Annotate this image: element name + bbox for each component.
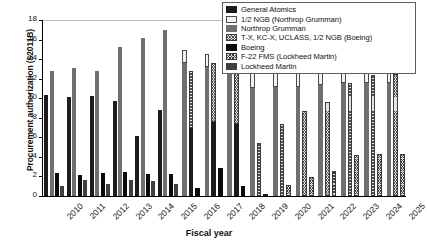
bar	[106, 184, 110, 196]
legend-swatch	[226, 63, 237, 70]
bar	[67, 97, 71, 196]
bar-segment-northrop_grumman	[72, 68, 76, 196]
bar-group-2016	[181, 21, 201, 196]
x-tick-label-2016: 2016	[201, 201, 221, 221]
bar	[90, 96, 94, 196]
bar-segment-lockheed_martin	[106, 184, 110, 196]
bar	[123, 172, 127, 196]
y-tick-mark	[39, 157, 43, 158]
y-tick-label: 18	[21, 14, 37, 23]
x-tick-label-2025: 2025	[406, 201, 426, 221]
bar-segment-northrop_grumman	[182, 63, 187, 196]
bar-group-2011	[67, 21, 87, 196]
bar	[393, 74, 398, 196]
bar-segment-boeing	[55, 173, 59, 196]
y-tick-label: 10	[21, 92, 37, 101]
bar	[163, 30, 167, 196]
y-tick-label: 0	[21, 190, 37, 199]
bar	[234, 67, 239, 196]
legend-label: 1/2 NGB (Northrop Grumman)	[241, 15, 341, 24]
bar	[135, 136, 139, 196]
legend-item-5: F-22 FMS (Lockheed Martin)	[226, 52, 412, 61]
bar-segment-northrop_grumman	[141, 38, 145, 196]
bar-segment-northrop_grumman	[387, 83, 392, 196]
bar-segment-boeing	[218, 168, 223, 196]
x-tick-label-2010: 2010	[65, 201, 85, 221]
bar	[250, 73, 255, 196]
bar-segment-northrop_grumman	[318, 85, 323, 196]
bar	[118, 47, 122, 196]
bar-segment-general_atomics	[234, 124, 239, 196]
bar	[302, 111, 307, 196]
bar	[55, 173, 59, 196]
bar	[309, 177, 314, 196]
bar-group-2014	[135, 21, 155, 196]
bar	[195, 188, 200, 196]
bar-segment-northrop_grumman	[296, 87, 301, 197]
bar	[286, 185, 291, 196]
bar-segment-boeing	[78, 175, 82, 196]
bar-segment-boeing_programs	[325, 102, 330, 196]
legend-label: Boeing	[241, 43, 264, 52]
bar	[129, 180, 133, 196]
bar	[318, 68, 323, 196]
y-tick-label: 8	[21, 112, 37, 121]
x-tick-label-2024: 2024	[383, 201, 403, 221]
x-tick-label-2014: 2014	[156, 201, 176, 221]
bar-group-2013	[113, 21, 133, 196]
bar-segment-half_ngb_northrop	[205, 54, 210, 67]
legend-swatch	[226, 53, 237, 60]
legend-item-2: Northrop Grumman	[226, 24, 412, 33]
bar-segment-general_atomics	[113, 101, 117, 196]
bar-segment-boeing_programs	[257, 143, 262, 196]
bar	[371, 75, 376, 196]
bar	[72, 68, 76, 196]
legend: General Atomics1/2 NGB (Northrop Grumman…	[222, 2, 416, 74]
bar-segment-f22_fms_lockheed	[309, 177, 314, 196]
y-tick-label: 2	[21, 170, 37, 179]
bar-segment-f22_fms_lockheed	[400, 154, 405, 196]
x-tick-label-2021: 2021	[315, 201, 335, 221]
y-tick-mark	[39, 137, 43, 138]
bar	[354, 155, 359, 196]
bar-segment-northrop_grumman	[273, 87, 278, 196]
bar	[296, 70, 301, 196]
bar-segment-lockheed_martin	[174, 184, 178, 196]
bar-segment-boeing	[169, 174, 173, 196]
y-tick-label: 12	[21, 73, 37, 82]
bar-segment-boeing_programs	[234, 67, 239, 124]
bar-segment-boeing_programs	[189, 71, 194, 128]
legend-item-3: T-X, KC-X, UCLASS, 1/2 NGB (Boeing)	[226, 33, 412, 42]
bar	[44, 95, 48, 196]
legend-label: F-22 FMS (Lockheed Martin)	[241, 52, 337, 61]
x-tick-label-2013: 2013	[133, 201, 153, 221]
bar	[263, 194, 268, 196]
x-tick-label-2015: 2015	[179, 201, 199, 221]
bar	[60, 186, 64, 196]
bar	[241, 186, 246, 196]
bar	[387, 67, 392, 196]
bar-segment-boeing	[241, 186, 246, 196]
bar	[211, 63, 216, 196]
bar-segment-lockheed_martin	[83, 180, 87, 196]
bar	[205, 54, 210, 196]
bar	[325, 102, 330, 196]
bar-segment-northrop_grumman	[227, 70, 232, 196]
bar	[50, 71, 54, 196]
legend-swatch	[226, 6, 237, 13]
bar-segment-f22_fms_lockheed	[377, 154, 382, 196]
bar	[348, 83, 353, 196]
bar	[400, 154, 405, 196]
legend-item-1: 1/2 NGB (Northrop Grumman)	[226, 14, 412, 23]
bar-segment-boeing	[195, 188, 200, 196]
bar	[113, 101, 117, 196]
x-tick-label-2017: 2017	[224, 201, 244, 221]
bar-segment-boeing	[146, 174, 150, 196]
bar	[341, 66, 346, 196]
bar	[189, 71, 194, 196]
bar-segment-northrop_grumman	[163, 30, 167, 196]
legend-label: Northrop Grumman	[241, 24, 306, 33]
bar-segment-boeing	[101, 173, 105, 196]
y-tick-label: 6	[21, 131, 37, 140]
bar-segment-general_atomics	[158, 110, 162, 196]
